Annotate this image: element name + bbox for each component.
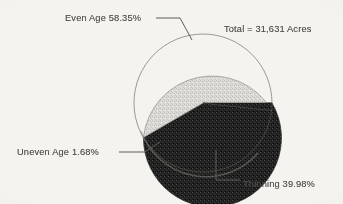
even-age-callout-label: Even Age 58.35% [65, 12, 141, 24]
pie-chart-figure: Even Age 58.35% Total = 31,631 Acres Une… [0, 0, 343, 204]
thinning-callout-label: Thinning 39.98% [243, 178, 315, 190]
uneven-age-callout-label: Uneven Age 1.68% [17, 146, 99, 158]
total-annotation-label: Total = 31,631 Acres [224, 23, 312, 35]
even-age-leader-line [156, 18, 192, 40]
